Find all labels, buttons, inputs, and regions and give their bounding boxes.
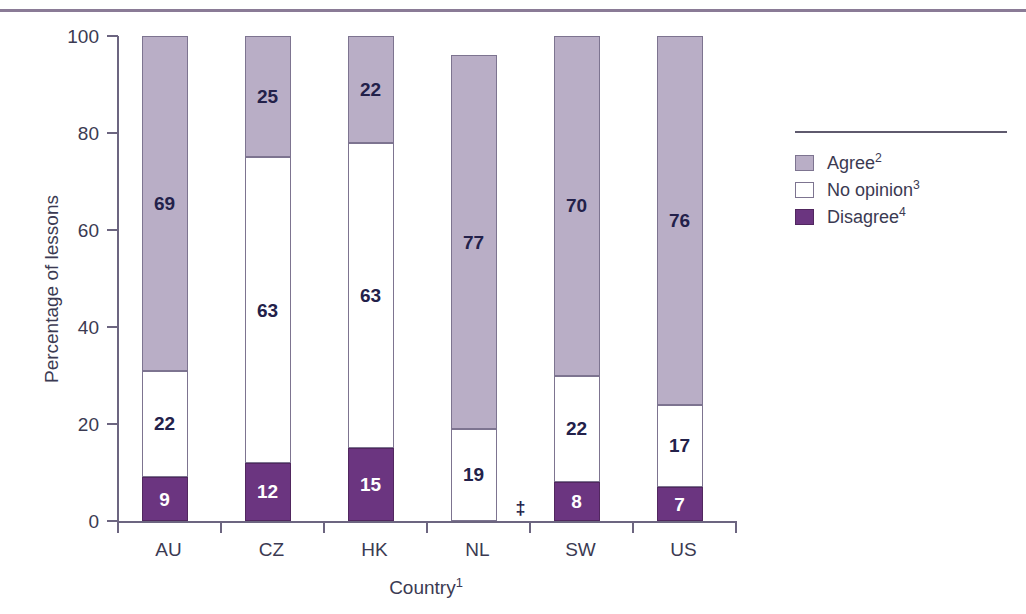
bar-segment-no-opinion-hk[interactable]: 63 bbox=[348, 143, 394, 449]
bar-stack-au[interactable]: 92269 bbox=[142, 0, 188, 614]
bar-segment-disagree-sw[interactable]: 8 bbox=[554, 482, 600, 521]
legend-footnote-agree: 2 bbox=[875, 151, 882, 165]
y-tick-60 bbox=[107, 229, 118, 231]
legend-label-no-opinion: No opinion3 bbox=[827, 181, 920, 199]
x-tick-0 bbox=[117, 521, 119, 533]
bar-stack-nl[interactable]: 1977 bbox=[451, 0, 497, 614]
bar-stack-cz[interactable]: 126325 bbox=[245, 0, 291, 614]
bar-stack-us[interactable]: 71776 bbox=[657, 0, 703, 614]
x-tick-1 bbox=[220, 521, 222, 533]
y-tick-label-100: 100 bbox=[55, 27, 99, 46]
disagree-swatch bbox=[795, 209, 814, 225]
legend-items: Agree2No opinion3Disagree4 bbox=[795, 149, 1007, 230]
bar-stack-sw[interactable]: 82270 bbox=[554, 0, 600, 614]
bar-segment-agree-cz[interactable]: 25 bbox=[245, 36, 291, 157]
chart-figure: 020406080100 AUCZHKNLSWUS 92269126325156… bbox=[0, 0, 1026, 614]
legend-footnote-no-opinion: 3 bbox=[913, 178, 920, 192]
no-opinion-swatch bbox=[795, 182, 814, 198]
x-axis-title-footnote: 1 bbox=[456, 575, 463, 590]
x-tick-3 bbox=[426, 521, 428, 533]
bar-segment-no-opinion-au[interactable]: 22 bbox=[142, 371, 188, 478]
bar-segment-agree-nl[interactable]: 77 bbox=[451, 55, 497, 428]
x-tick-5 bbox=[632, 521, 634, 533]
bar-segment-agree-hk[interactable]: 22 bbox=[348, 36, 394, 143]
legend-footnote-disagree: 4 bbox=[899, 205, 906, 219]
legend-label-agree: Agree2 bbox=[827, 154, 882, 172]
plot-area: 020406080100 AUCZHKNLSWUS 92269126325156… bbox=[0, 0, 1026, 614]
bar-segment-disagree-hk[interactable]: 15 bbox=[348, 448, 394, 521]
legend-item-disagree[interactable]: Disagree4 bbox=[795, 203, 1007, 230]
y-axis-line bbox=[117, 36, 119, 523]
bar-segment-no-opinion-cz[interactable]: 63 bbox=[245, 157, 291, 463]
bar-segment-disagree-us[interactable]: 7 bbox=[657, 487, 703, 521]
bar-segment-agree-us[interactable]: 76 bbox=[657, 36, 703, 405]
legend-item-agree[interactable]: Agree2 bbox=[795, 149, 1007, 176]
legend-label-disagree: Disagree4 bbox=[827, 208, 906, 226]
bar-segment-agree-au[interactable]: 69 bbox=[142, 36, 188, 371]
legend-top-rule bbox=[795, 131, 1007, 133]
y-tick-80 bbox=[107, 132, 118, 134]
x-tick-4 bbox=[529, 521, 531, 533]
bar-segment-no-opinion-nl[interactable]: 19 bbox=[451, 429, 497, 521]
agree-swatch bbox=[795, 155, 814, 171]
y-tick-40 bbox=[107, 326, 118, 328]
annotation-dagger-nl: ‡ bbox=[516, 499, 526, 517]
y-tick-label-0: 0 bbox=[55, 512, 99, 531]
chart-legend: Agree2No opinion3Disagree4 bbox=[795, 131, 1007, 230]
bar-segment-disagree-au[interactable]: 9 bbox=[142, 477, 188, 521]
y-tick-100 bbox=[107, 35, 118, 37]
bar-segment-no-opinion-us[interactable]: 17 bbox=[657, 405, 703, 487]
x-tick-6 bbox=[735, 521, 737, 533]
bar-segment-no-opinion-sw[interactable]: 22 bbox=[554, 376, 600, 483]
bar-stack-hk[interactable]: 156322 bbox=[348, 0, 394, 614]
bar-segment-agree-sw[interactable]: 70 bbox=[554, 36, 600, 376]
legend-item-no-opinion[interactable]: No opinion3 bbox=[795, 176, 1007, 203]
x-axis-title-text: Country bbox=[389, 577, 456, 598]
y-tick-20 bbox=[107, 423, 118, 425]
x-axis-title: Country1 bbox=[117, 577, 735, 599]
x-tick-2 bbox=[323, 521, 325, 533]
y-axis-title: Percentage of lessons bbox=[41, 89, 63, 489]
bar-segment-disagree-cz[interactable]: 12 bbox=[245, 463, 291, 521]
